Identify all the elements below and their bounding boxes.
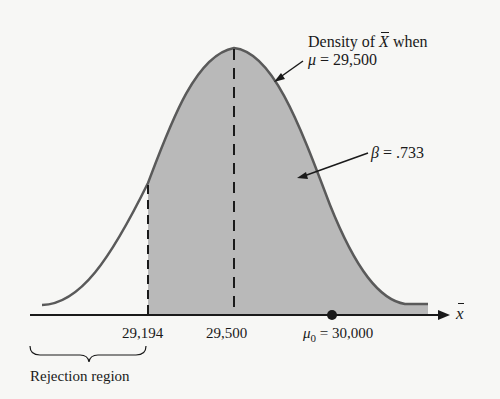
density-label-line2: μ = 29,500 bbox=[308, 52, 377, 68]
x-axis-arrow-icon bbox=[438, 310, 450, 320]
density-mu-value: = 29,500 bbox=[316, 51, 377, 68]
beta-label: β = .733 bbox=[371, 145, 424, 161]
x-axis-label: x bbox=[456, 305, 464, 322]
tick-label-critical: 29,194 bbox=[122, 326, 163, 341]
density-label-line1: Density of X when bbox=[308, 34, 428, 50]
beta-value: = .733 bbox=[379, 144, 424, 161]
mu0-value: = 30,000 bbox=[316, 325, 373, 341]
rejection-brace bbox=[30, 346, 146, 362]
null-mean-dot bbox=[327, 310, 337, 320]
mu0-symbol: μ bbox=[303, 325, 311, 341]
tick-label-null-mean: μ0 = 30,000 bbox=[303, 326, 373, 344]
density-label-suffix: when bbox=[389, 33, 428, 50]
rejection-region-label: Rejection region bbox=[30, 369, 130, 384]
density-label-prefix: Density of bbox=[308, 33, 379, 50]
tick-label-mean: 29,500 bbox=[206, 326, 247, 341]
mu-symbol: μ bbox=[308, 51, 316, 68]
beta-symbol: β bbox=[371, 144, 379, 161]
density-xbar: X bbox=[379, 34, 389, 50]
density-chart bbox=[0, 0, 500, 399]
